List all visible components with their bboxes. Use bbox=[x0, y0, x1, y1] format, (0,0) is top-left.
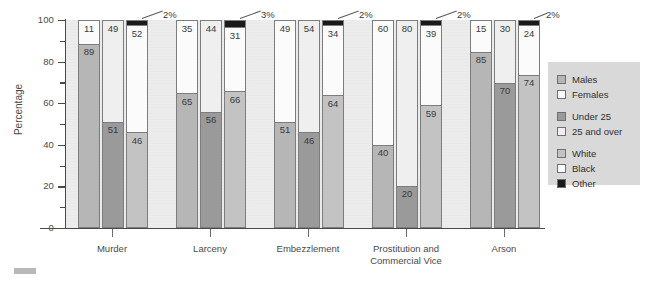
segment-prostitution-black: 39 bbox=[421, 25, 441, 105]
segment-embezzlement-over25: 54 bbox=[299, 21, 319, 132]
bar-prostitution-age[interactable]: 80 20 bbox=[396, 20, 418, 228]
legend-label: White bbox=[572, 148, 596, 159]
segment-larceny-females: 35 bbox=[177, 21, 197, 93]
segment-murder-under25: 51 bbox=[103, 122, 123, 227]
bar-larceny-race[interactable]: 31 66 bbox=[224, 20, 246, 228]
bar-embezzlement-sex[interactable]: 49 51 bbox=[274, 20, 296, 228]
bar-prostitution-sex[interactable]: 60 40 bbox=[372, 20, 394, 228]
x-label-larceny: Larceny bbox=[170, 243, 250, 255]
y-tick-0 bbox=[58, 228, 65, 229]
segment-label: 44 bbox=[201, 23, 221, 34]
segment-embezzlement-white: 64 bbox=[323, 95, 343, 227]
segment-embezzlement-under25: 46 bbox=[299, 132, 319, 227]
segment-label: 65 bbox=[177, 96, 197, 107]
legend-item-females[interactable]: Females bbox=[557, 87, 622, 102]
segment-label: 56 bbox=[201, 114, 221, 125]
segment-murder-males: 89 bbox=[79, 44, 99, 227]
x-tick-murder bbox=[112, 229, 113, 237]
bar-arson-sex[interactable]: 15 85 bbox=[470, 20, 492, 228]
segment-label: 20 bbox=[397, 188, 417, 199]
y-tick-label-40: 40 bbox=[28, 139, 54, 150]
legend-item-other[interactable]: Other bbox=[557, 176, 622, 191]
segment-label: 46 bbox=[299, 135, 319, 146]
segment-label: 80 bbox=[397, 23, 417, 34]
x-label-embezzlement: Embezzlement bbox=[260, 243, 356, 255]
y-tick-label-20: 20 bbox=[28, 180, 54, 191]
segment-label: 64 bbox=[323, 98, 343, 109]
y-tick-20 bbox=[58, 186, 65, 187]
segment-embezzlement-males: 51 bbox=[275, 122, 295, 227]
over25-swatch bbox=[557, 127, 566, 136]
x-tick-prostitution bbox=[406, 229, 407, 237]
legend-label: Black bbox=[572, 163, 595, 174]
y-tick-30 bbox=[60, 166, 65, 167]
bar-chart: 100 80 60 40 20 0 Percentage 11 89 49 51 bbox=[0, 0, 651, 285]
y-tick-label-80: 80 bbox=[28, 56, 54, 67]
segment-label: 24 bbox=[519, 28, 539, 39]
legend-label: Other bbox=[572, 178, 596, 189]
segment-murder-black: 52 bbox=[127, 25, 147, 132]
callout-leader-embezzlement bbox=[338, 11, 359, 19]
legend-item-black[interactable]: Black bbox=[557, 161, 622, 176]
segment-label: 49 bbox=[103, 23, 123, 34]
bar-group-murder: 11 89 49 51 52 46 bbox=[78, 20, 150, 228]
legend-label: Females bbox=[572, 89, 608, 100]
segment-arson-under25: 70 bbox=[495, 83, 515, 227]
bar-murder-sex[interactable]: 11 89 bbox=[78, 20, 100, 228]
segment-larceny-white: 66 bbox=[225, 91, 245, 227]
segment-label: 60 bbox=[373, 23, 393, 34]
segment-arson-males: 85 bbox=[471, 52, 491, 227]
segment-label: 74 bbox=[519, 77, 539, 88]
segment-arson-black: 24 bbox=[519, 25, 539, 74]
y-tick-label-100: 100 bbox=[28, 14, 54, 25]
bar-embezzlement-race[interactable]: 34 64 bbox=[322, 20, 344, 228]
segment-label: 85 bbox=[471, 54, 491, 65]
segment-prostitution-females: 60 bbox=[373, 21, 393, 145]
page-corner-mark bbox=[14, 268, 36, 274]
legend-item-white[interactable]: White bbox=[557, 146, 622, 161]
segment-embezzlement-females: 49 bbox=[275, 21, 295, 122]
bar-arson-race[interactable]: 24 74 bbox=[518, 20, 540, 228]
x-axis-line bbox=[40, 228, 545, 229]
x-label-murder: Murder bbox=[72, 243, 152, 255]
bar-murder-race[interactable]: 52 46 bbox=[126, 20, 148, 228]
segment-label: 30 bbox=[495, 23, 515, 34]
legend-item-males[interactable]: Males bbox=[557, 72, 622, 87]
segment-label: 11 bbox=[79, 23, 99, 34]
legend-label: Males bbox=[572, 74, 597, 85]
x-tick-arson bbox=[504, 229, 505, 237]
callout-leader-prostitution bbox=[436, 11, 457, 19]
y-axis-title: Percentage bbox=[13, 40, 24, 180]
legend-label: Under 25 bbox=[572, 111, 611, 122]
legend-item-under25[interactable]: Under 25 bbox=[557, 109, 622, 124]
segment-label: 51 bbox=[103, 124, 123, 135]
segment-murder-over25: 49 bbox=[103, 21, 123, 122]
callout-larceny-other: 3% bbox=[261, 9, 275, 20]
legend-item-over25[interactable]: 25 and over bbox=[557, 124, 622, 139]
bar-larceny-age[interactable]: 44 56 bbox=[200, 20, 222, 228]
x-label-prostitution: Prostitution and Commercial Vice bbox=[358, 243, 454, 266]
y-tick-60 bbox=[58, 103, 65, 104]
bar-larceny-sex[interactable]: 35 65 bbox=[176, 20, 198, 228]
bar-arson-age[interactable]: 30 70 bbox=[494, 20, 516, 228]
segment-larceny-males: 65 bbox=[177, 93, 197, 227]
x-label-prostitution-line1: Prostitution and bbox=[373, 243, 439, 254]
callout-leader-murder bbox=[142, 11, 163, 19]
segment-larceny-under25: 56 bbox=[201, 112, 221, 227]
bar-group-arson: 15 85 30 70 24 74 bbox=[470, 20, 542, 228]
white-swatch bbox=[557, 149, 566, 158]
bar-murder-age[interactable]: 49 51 bbox=[102, 20, 124, 228]
bar-embezzlement-age[interactable]: 54 46 bbox=[298, 20, 320, 228]
bar-group-prostitution: 60 40 80 20 39 59 bbox=[372, 20, 444, 228]
segment-arson-white: 74 bbox=[519, 75, 539, 227]
x-label-prostitution-line2: Commercial Vice bbox=[370, 255, 442, 266]
segment-label: 35 bbox=[177, 23, 197, 34]
callout-murder-other: 2% bbox=[163, 9, 177, 20]
y-tick-80 bbox=[58, 62, 65, 63]
bar-prostitution-race[interactable]: 39 59 bbox=[420, 20, 442, 228]
segment-murder-white: 46 bbox=[127, 132, 147, 227]
segment-embezzlement-black: 34 bbox=[323, 25, 343, 95]
bar-group-embezzlement: 49 51 54 46 34 64 bbox=[274, 20, 346, 228]
callout-arson-other: 2% bbox=[546, 9, 560, 20]
segment-label: 49 bbox=[275, 23, 295, 34]
